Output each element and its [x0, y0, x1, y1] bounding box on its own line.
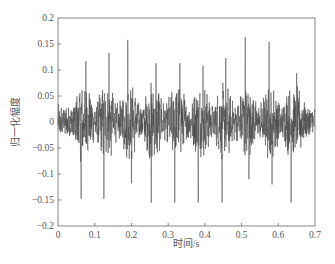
- x-tick-label: 0.4: [199, 230, 211, 240]
- x-tick-label: 0.5: [236, 230, 248, 240]
- figure-caption: [48, 257, 298, 264]
- x-axis-title: 时间/s: [173, 237, 200, 249]
- y-tick-label: −0.2: [37, 221, 54, 231]
- y-tick-label: 0.1: [42, 65, 54, 75]
- y-tick-label: 0.05: [37, 91, 54, 101]
- y-axis: 0.20.150.10.050−0.05−0.1−0.15−0.2: [32, 13, 61, 231]
- chart-canvas: 00.10.20.30.40.50.60.7 0.20.150.10.050−0…: [0, 0, 335, 264]
- x-tick-label: 0.1: [89, 230, 101, 240]
- y-tick-label: −0.15: [32, 195, 54, 205]
- y-tick-label: 0.2: [42, 13, 54, 23]
- waveform-chart: 00.10.20.30.40.50.60.7 0.20.150.10.050−0…: [0, 0, 335, 264]
- signal-line: [58, 37, 315, 202]
- y-tick-label: 0: [49, 117, 54, 127]
- y-tick-label: −0.05: [32, 143, 54, 153]
- y-axis-title: 归一化幅度: [9, 97, 21, 147]
- y-tick-label: 0.15: [37, 39, 54, 49]
- signal-polyline: [58, 37, 315, 202]
- y-tick-label: −0.1: [37, 169, 54, 179]
- x-tick-label: 0: [56, 230, 61, 240]
- x-tick-label: 0.2: [125, 230, 137, 240]
- x-tick-label: 0.7: [309, 230, 321, 240]
- x-tick-label: 0.6: [272, 230, 284, 240]
